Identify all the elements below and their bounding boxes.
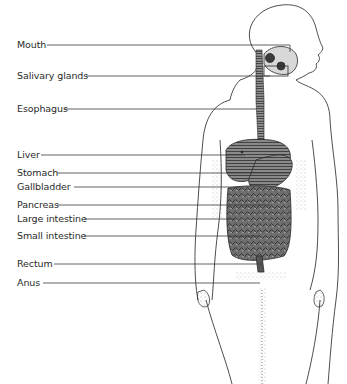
label-rectum: Rectum [17,258,53,269]
label-stomach: Stomach [17,167,58,178]
label-pancreas: Pancreas [17,199,59,210]
label-mouth: Mouth [17,39,46,50]
mouth-salivary [264,47,298,77]
anatomy-figure [0,0,347,384]
label-large-intestine: Large intestine [17,213,87,224]
digestive-system-diagram: Mouth Salivary glands Esophagus Liver St… [0,0,347,384]
label-salivary-glands: Salivary glands [17,70,88,81]
label-anus: Anus [17,277,40,288]
label-small-intestine: Small intestine [17,230,86,241]
label-gallbladder: Gallbladder [17,181,71,192]
esophagus-organ [256,50,264,140]
upper-organs [226,139,292,190]
label-esophagus: Esophagus [17,103,68,114]
intestines [227,186,291,272]
label-liver: Liver [17,149,40,160]
